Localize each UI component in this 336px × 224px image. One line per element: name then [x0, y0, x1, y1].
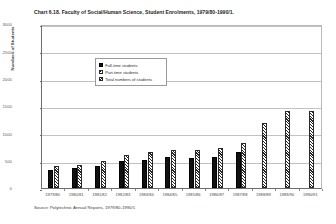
x-tick-mark — [111, 189, 112, 191]
bar — [48, 170, 53, 188]
x-tick-mark — [275, 189, 276, 191]
y-tick-mark — [40, 135, 43, 136]
x-tick-label: 1980/81 — [64, 192, 87, 197]
bar-group — [89, 26, 112, 188]
bar — [189, 158, 194, 188]
bar — [171, 150, 176, 188]
bar-group — [300, 26, 323, 188]
bar — [195, 150, 200, 188]
x-tick-label: 1989/90 — [275, 192, 298, 197]
x-tick-label: 1990/91 — [299, 192, 322, 197]
x-tick-mark — [64, 189, 65, 191]
y-tick-mark — [40, 108, 43, 109]
y-tick-label: 500 — [0, 159, 12, 164]
x-tick-label: 1985/86 — [182, 192, 205, 197]
bar — [77, 165, 82, 189]
bar — [262, 123, 267, 188]
bar-group — [253, 26, 276, 188]
x-tick-label: 1979/80 — [41, 192, 64, 197]
source-note: Source: Polytechnic Annual Reports, 1979… — [34, 205, 135, 210]
bar — [101, 161, 106, 188]
x-tick-mark — [88, 189, 89, 191]
bar — [236, 152, 241, 188]
bar — [72, 168, 77, 188]
bar-group — [276, 26, 299, 188]
x-tick-label: 1983/84 — [135, 192, 158, 197]
bar — [142, 160, 147, 188]
bar — [95, 166, 100, 188]
bar-group — [206, 26, 229, 188]
x-tick-mark — [158, 189, 159, 191]
bar — [218, 148, 223, 188]
x-tick-label: 1984/85 — [158, 192, 181, 197]
x-tick-label: 1981/82 — [88, 192, 111, 197]
x-tick-label: 1982/83 — [111, 192, 134, 197]
y-tick-label: 1000 — [0, 132, 12, 137]
bar — [165, 157, 170, 188]
legend-item: Full-time students — [99, 62, 163, 69]
y-tick-label: 0 — [0, 186, 12, 191]
chart-figure: Chart 6.18. Faculty of Social/Human Scie… — [0, 0, 336, 224]
bar — [285, 111, 290, 188]
bar — [212, 157, 217, 188]
bar-group — [159, 26, 182, 188]
legend-swatch-icon — [99, 70, 103, 74]
y-tick-mark — [40, 81, 43, 82]
y-tick-mark — [40, 53, 43, 54]
chart-title: Chart 6.18. Faculty of Social/Human Scie… — [34, 9, 330, 16]
y-tick-label: 2500 — [0, 50, 12, 55]
chart-legend: Full-time studentsPart-time studentsTota… — [95, 58, 167, 86]
x-tick-label: 1987/88 — [228, 192, 251, 197]
x-tick-mark — [205, 189, 206, 191]
x-tick-label: 1988/89 — [252, 192, 275, 197]
legend-item: Part-time students — [99, 69, 163, 76]
x-tick-mark — [228, 189, 229, 191]
bar — [124, 155, 129, 188]
legend-label: Total numbers of students — [105, 77, 152, 82]
legend-swatch-icon — [99, 77, 103, 81]
plot-area: Full-time studentsPart-time studentsTota… — [41, 25, 322, 189]
x-tick-mark — [135, 189, 136, 191]
x-tick-mark — [299, 189, 300, 191]
bar-group — [112, 26, 135, 188]
bar-group — [42, 26, 65, 188]
bar — [241, 143, 246, 188]
x-tick-mark — [252, 189, 253, 191]
x-tick-label: 1986/87 — [205, 192, 228, 197]
y-tick-mark — [40, 26, 43, 27]
x-tick-mark — [322, 189, 323, 191]
legend-swatch-icon — [99, 63, 103, 67]
legend-label: Part-time students — [105, 70, 138, 75]
bar — [54, 166, 59, 188]
y-tick-label: 3000 — [0, 22, 12, 27]
bar — [119, 161, 124, 188]
bar — [309, 111, 314, 188]
legend-label: Full-time students — [105, 63, 137, 68]
y-tick-mark — [40, 190, 43, 191]
x-tick-mark — [182, 189, 183, 191]
legend-item: Total numbers of students — [99, 76, 163, 83]
bar-group — [183, 26, 206, 188]
bar-group — [136, 26, 159, 188]
y-tick-label: 1500 — [0, 104, 12, 109]
bar-group — [65, 26, 88, 188]
y-tick-mark — [40, 163, 43, 164]
bars-layer — [42, 26, 321, 188]
y-tick-label: 2000 — [0, 77, 12, 82]
bar-group — [229, 26, 252, 188]
bar — [148, 152, 153, 188]
